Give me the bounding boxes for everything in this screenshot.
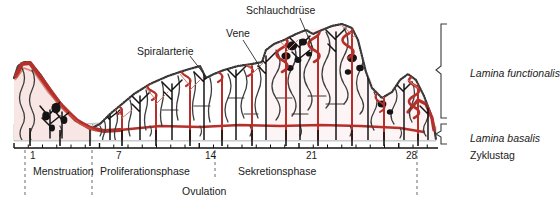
- layer-brackets: [436, 24, 447, 144]
- bracket-lamina-functionalis: [436, 24, 447, 118]
- side-label-zyklustag: Zyklustag: [470, 150, 515, 162]
- axis-tick-label-day-1: 1: [30, 150, 36, 161]
- callout-label-vene: Vene: [226, 28, 250, 40]
- cycle-day-axis: [14, 143, 438, 148]
- phase-label-menstruation: Menstruation: [33, 165, 94, 177]
- side-label-lamina-functionalis: Lamina functionalis: [470, 68, 560, 80]
- axis-tick-label-day-21: 21: [306, 150, 317, 161]
- axis-tick-label-day-7: 7: [116, 150, 122, 161]
- callout-label-schlauchdruese: Schlauchdrüse: [246, 5, 315, 17]
- callout-label-spiralarterie: Spiralarterie: [137, 46, 194, 58]
- bracket-lamina-basalis: [436, 124, 447, 144]
- phase-label-ovulation: Ovulation: [182, 185, 226, 197]
- phase-label-proliferationsphase: Proliferationsphase: [100, 165, 190, 177]
- side-label-lamina-basalis: Lamina basalis: [470, 133, 540, 145]
- axis-tick-label-day-14: 14: [205, 150, 216, 161]
- phase-label-sekretionsphase: Sekretionsphase: [238, 165, 316, 177]
- axis-tick-label-day-28: 28: [406, 150, 417, 161]
